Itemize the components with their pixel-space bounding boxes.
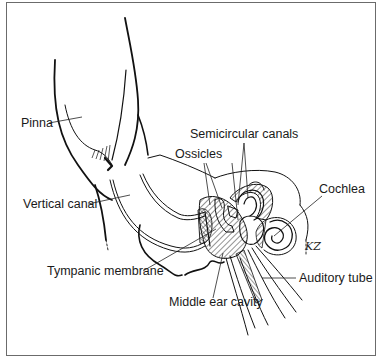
label-pinna: Pinna — [21, 116, 53, 130]
label-semicircular-canals: Semicircular canals — [190, 127, 298, 141]
auditory-tube-shape — [226, 246, 302, 335]
ear-anatomy-diagram: KZ Pinna Semicircular canals Ossicles Co… — [0, 0, 380, 360]
label-cochlea: Cochlea — [319, 182, 365, 196]
artist-signature: KZ — [304, 240, 321, 253]
label-ossicles: Ossicles — [175, 147, 222, 161]
ear-canal-shape — [110, 174, 205, 276]
cochlea-shape — [256, 217, 296, 255]
label-tympanic-membrane: Tympanic membrane — [47, 264, 164, 278]
label-auditory-tube: Auditory tube — [299, 271, 373, 285]
label-vertical-canal: Vertical canal — [23, 197, 97, 211]
label-middle-ear-cavity: Middle ear cavity — [169, 295, 264, 309]
